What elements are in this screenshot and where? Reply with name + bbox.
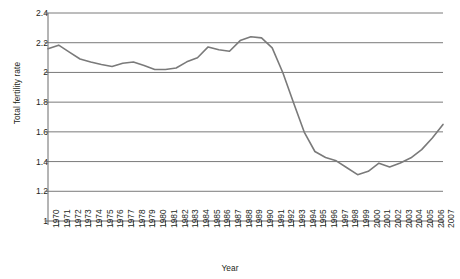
data-series-line: [48, 37, 443, 175]
gridlines: [48, 13, 443, 221]
chart-figure: Total fertility rate 11.21.41.61.822.22.…: [0, 0, 460, 279]
x-axis-label: Year: [0, 263, 460, 273]
x-tick-marks: [48, 221, 443, 225]
y-tick-marks: [45, 13, 49, 221]
plot-area: [0, 0, 460, 279]
